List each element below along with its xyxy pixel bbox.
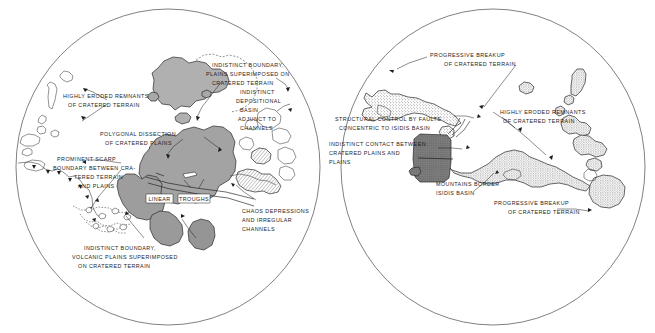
label-line: VOLCANIC PLAINS SUPERIMPOSED bbox=[72, 254, 178, 260]
label-line: AND PLAINS bbox=[78, 183, 115, 189]
label-line: STRUCTURAL CONTROL BY FAULTS bbox=[335, 116, 441, 122]
linear-box-label: LINEAR bbox=[146, 194, 173, 203]
label-line: OF CRATERED TERRAIN bbox=[508, 209, 580, 215]
label-line: PROGRESSIVE BREAKUP bbox=[430, 52, 505, 58]
label-line: CONCENTRIC TO ISIDIS BASIN bbox=[339, 125, 430, 131]
label-line: INDISTINCT bbox=[240, 89, 275, 95]
label-line: OF CRATERED TERRAIN bbox=[68, 102, 140, 108]
label-line: CHANNELS bbox=[242, 226, 275, 232]
label-line: BOUNDARY BETWEEN CRA- bbox=[53, 165, 136, 171]
label-line: PROGRESSIVE BREAKUP bbox=[494, 200, 569, 206]
label-line: ADJUNCT TO bbox=[238, 116, 276, 122]
label-line: CRATERED PLAINS AND bbox=[329, 150, 400, 156]
label-line: INDISTINCT BOUNDARY, bbox=[84, 245, 156, 251]
label-line: CHANNELS bbox=[240, 125, 273, 131]
label-line: OF CRATERED PLAINS bbox=[105, 140, 172, 146]
label-line: AND IRREGULAR bbox=[242, 217, 292, 223]
label-line: ON CRATERED TERRAIN bbox=[78, 263, 150, 269]
label-line: POLYGONAL DISSECTION bbox=[100, 131, 176, 137]
label-line: TERED TERRAIN bbox=[74, 174, 123, 180]
troughs-box-label: TROUGHS bbox=[178, 194, 210, 203]
linear-box-text: LINEAR bbox=[148, 196, 170, 202]
label-line: PLAINS bbox=[329, 159, 351, 165]
north-plains-islet bbox=[148, 92, 159, 101]
label-line: HIGHLY ERODED REMNANTS bbox=[63, 93, 149, 99]
label-line: PLAINS SUPERIMPOSED ON bbox=[206, 71, 290, 77]
label-line: DEPOSITIONAL bbox=[236, 98, 281, 104]
label-line: ISIDIS BASIN bbox=[436, 190, 475, 196]
label-line: CRATERED TERRAIN bbox=[212, 80, 274, 86]
mars-hemispheric-map-figure: LINEAR TROUGHS bbox=[0, 0, 655, 333]
label-line: HIGHLY ERODED REMNANTS bbox=[500, 109, 586, 115]
label-line: INDISTINCT BOUNDARY, bbox=[212, 62, 284, 68]
troughs-box-text: TROUGHS bbox=[179, 196, 209, 202]
label-line: OF CRATERED TERRAIN bbox=[444, 61, 516, 67]
label-line: PROMINENT SCARP bbox=[57, 156, 116, 162]
label-line: CHAOS DEPRESSIONS bbox=[242, 208, 309, 214]
label-line: MOUNTAINS BORDER bbox=[436, 181, 500, 187]
label-line: OF CRATERED TERRAIN bbox=[503, 118, 575, 124]
label-line: INDISTINCT CONTACT BETWEEN bbox=[329, 141, 426, 147]
label-line: BASIN bbox=[240, 107, 258, 113]
